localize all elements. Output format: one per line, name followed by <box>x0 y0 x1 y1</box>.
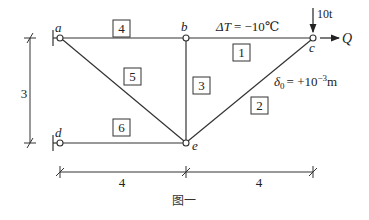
load-horizontal-label: Q <box>342 31 352 46</box>
member-label-2: 2 <box>256 98 263 113</box>
truss-members <box>63 38 311 143</box>
member-label-6: 6 <box>118 120 125 135</box>
hinge-e <box>183 140 189 146</box>
figure-caption: 图一 <box>172 194 196 208</box>
hinge-b <box>183 35 189 41</box>
node-label-b: b <box>181 19 188 34</box>
member-label-4: 4 <box>118 21 125 36</box>
node-label-c: c <box>309 40 315 55</box>
member-label-5: 5 <box>129 69 136 84</box>
settlement-annotation: δ0= +10−3m <box>274 73 337 91</box>
hinge-a <box>57 35 63 41</box>
hinge-d <box>57 140 63 146</box>
node-label-d: d <box>55 125 62 140</box>
member-label-3: 3 <box>198 78 205 93</box>
dimension-height-label: 3 <box>21 86 28 101</box>
load-vertical-label: 10t <box>317 7 333 21</box>
load-vertical: 10t <box>313 7 333 32</box>
node-label-e: e <box>192 138 198 153</box>
truss-diagram: a b c d e 4 1 3 5 6 2 ΔT= −10℃ δ0= +10−3… <box>0 0 369 220</box>
temperature-annotation: ΔT= −10℃ <box>215 19 279 34</box>
dimension-width-right-label: 4 <box>256 175 263 190</box>
member-label-1: 1 <box>238 45 245 60</box>
dimension-horizontal <box>56 166 317 178</box>
dimension-width-left-label: 4 <box>119 175 126 190</box>
node-label-a: a <box>55 20 62 35</box>
load-horizontal: Q <box>320 31 352 46</box>
